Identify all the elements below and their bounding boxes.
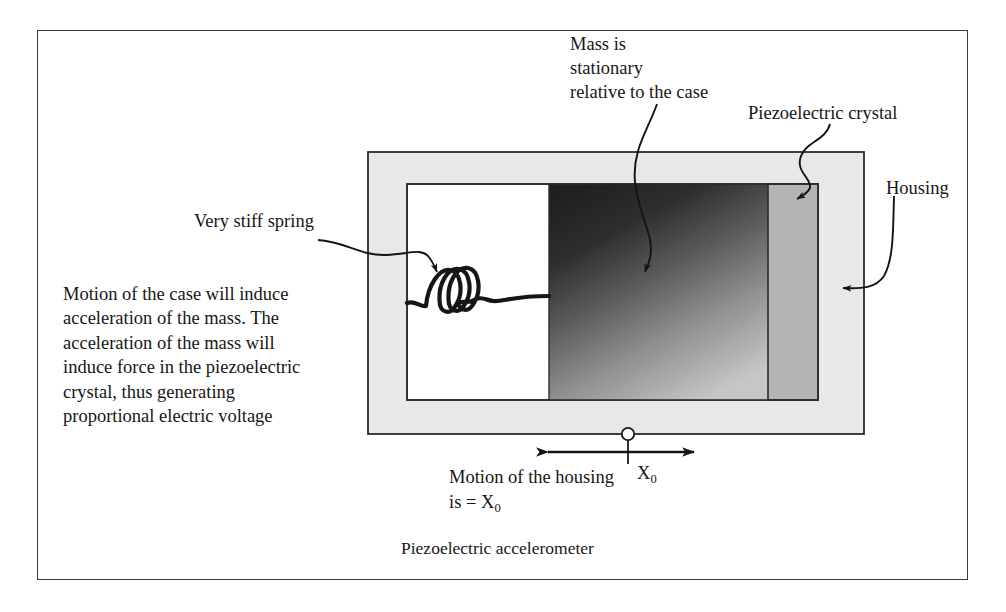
housing-label: Housing bbox=[886, 176, 949, 200]
motion-x0-subscript: 0 bbox=[494, 501, 500, 515]
figure-canvas: Mass is stationary relative to the case … bbox=[0, 0, 1006, 612]
piezoelectric-crystal bbox=[768, 184, 818, 400]
description-paragraph: Motion of the case will induce accelerat… bbox=[63, 282, 300, 428]
crystal-label: Piezoelectric crystal bbox=[748, 101, 897, 125]
x0-symbol: X bbox=[637, 463, 650, 483]
x0-dimension-label: X0 bbox=[637, 461, 657, 491]
motion-line-2: is = X0 bbox=[449, 492, 501, 512]
motion-of-housing-label: Motion of the housingis = X0 bbox=[449, 465, 614, 521]
motion-line-1: Motion of the housing bbox=[449, 467, 614, 487]
seismic-mass bbox=[549, 184, 768, 400]
x0-subscript: 0 bbox=[650, 472, 656, 486]
mass-note-label: Mass is stationary relative to the case bbox=[570, 32, 708, 104]
figure-caption: Piezoelectric accelerometer bbox=[401, 536, 594, 560]
spring-label: Very stiff spring bbox=[194, 209, 314, 233]
motion-pivot bbox=[622, 428, 634, 440]
